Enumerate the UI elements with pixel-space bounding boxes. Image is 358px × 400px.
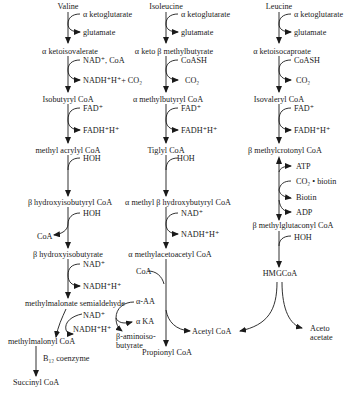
- valine-step3-in: FAD⁺: [83, 105, 103, 113]
- valine-final-product: Succinyl CoA: [13, 379, 59, 387]
- valine-final-cofactor: B₁₂ coenzyme: [43, 355, 89, 363]
- isoleucine-step3-cofactor-curve: [166, 108, 178, 130]
- leucine-step2-in: CoASH: [294, 57, 320, 65]
- isoleucine-label: Isoleucine: [149, 3, 183, 11]
- valine-step5-out: CoA: [37, 233, 52, 241]
- valine-branch-right-out: α KA: [136, 318, 154, 326]
- leucine-step2-out: CO₂: [296, 77, 310, 85]
- valine-step5-product: β hydroxyisobutyrate: [33, 251, 103, 259]
- acetyl-coa-label: Acetyl CoA: [192, 328, 231, 336]
- isoleucine-step1-cofactor-curve: [166, 14, 178, 32]
- isoleucine-step5-cofactor-curve: [166, 213, 178, 234]
- valine-step3-cofactor-curve: [68, 108, 80, 130]
- isoleucine-step1-in: α ketoglutarate: [181, 11, 230, 19]
- leucine-step4-atp: ATP: [296, 163, 311, 171]
- isoleucine-step4-product: α methyl β hydroxybutyryl CoA: [125, 199, 231, 207]
- leucine-step4-adp: ADP: [296, 209, 312, 217]
- bcaa-catabolism-diagram: Valine α ketoglutarate glutamate α ketoi…: [0, 0, 358, 400]
- valine-step5-cofactor-curve: [54, 213, 80, 235]
- leucine-step3-product: β methylcrotonyl CoA: [248, 147, 322, 155]
- leucine-step4-up-arrowhead: [276, 156, 282, 164]
- propionyl-coa-label: Propionyl CoA: [142, 349, 192, 357]
- valine-label: Valine: [58, 3, 79, 11]
- leucine-step5-cofactor-curve: [279, 236, 291, 246]
- valine-branch-right-product-line1: β-aminoiso-: [116, 333, 156, 341]
- valine-step2-out: NADH⁺H⁺+ CO₂: [83, 77, 142, 85]
- valine-branch-left-arrow: [56, 309, 66, 337]
- valine-step1-cofactor-curve: [68, 14, 80, 32]
- valine-branch-right-in: α-AA: [136, 298, 155, 306]
- acetoacetate-label-line2: acetate: [310, 334, 333, 342]
- leucine-step4-co2-biotin: CO₂ • biotin: [296, 178, 336, 186]
- valine-step3-out: FADH⁺H⁺: [83, 127, 119, 135]
- valine-step1-in: α ketoglutarate: [83, 11, 132, 19]
- leucine-arrows: [240, 12, 302, 331]
- leucine-step4-product: β methylglutaconyl CoA: [252, 222, 333, 230]
- valine-step6-in: NAD⁺: [83, 261, 105, 269]
- valine-step1-product: α ketoisovalerate: [42, 48, 98, 56]
- valine-step4-in: HOH: [83, 155, 101, 163]
- valine-step6-out: NADH⁺H⁺: [83, 283, 121, 291]
- leucine-step3-out: FADH⁺H⁺: [294, 127, 330, 135]
- isoleucine-step2-cofactor-curve: [166, 60, 178, 80]
- leucine-step4-biotin: Biotin: [296, 194, 316, 202]
- leucine-step1-out: glutamate: [294, 29, 326, 37]
- valine-branch-left-in: NAD⁺: [83, 312, 105, 320]
- leucine-step1-product: α ketoisocaproate: [253, 48, 311, 56]
- isoleucine-to-acetylcoa-curve: [166, 310, 190, 331]
- hmgcoa-to-acetylcoa-curve: [240, 282, 277, 331]
- valine-branch-left-product: methylmalonyl CoA: [8, 338, 75, 346]
- valine-step6-cofactor-curve: [68, 264, 80, 286]
- leucine-step4-co2biotin-curve: [279, 181, 291, 190]
- leucine-step4-adp-curve: [279, 200, 291, 212]
- leucine-step3-in: FAD⁺: [294, 105, 314, 113]
- leucine-step4-atp-curve: [279, 166, 291, 172]
- acetoacetate-label-line1: Aceto: [310, 325, 330, 333]
- isoleucine-step5-product: α methylacetoacetyl CoA: [128, 251, 211, 259]
- isoleucine-step1-product: α keto β methylbutyrate: [135, 48, 213, 56]
- leucine-step2-product: Isovaleryl CoA: [254, 96, 304, 104]
- isoleucine-step2-product: α methylbutyryl CoA: [133, 96, 203, 104]
- valine-step4-cofactor-curve: [68, 158, 80, 170]
- valine-step2-cofactor-curve: [68, 60, 80, 80]
- isoleucine-thiolase-in: CoA: [136, 268, 151, 276]
- isoleucine-step5-out: NADH⁺H⁺: [181, 231, 219, 239]
- isoleucine-step3-in: FAD⁺: [181, 105, 201, 113]
- leucine-step2-cofactor-curve: [279, 60, 291, 80]
- hmgcoa-label: HMGCoA: [263, 270, 298, 278]
- valine-branch-right-cofactor-out: [116, 318, 132, 323]
- leucine-label: Leucine: [266, 3, 292, 11]
- leucine-step1-cofactor-curve: [279, 14, 291, 32]
- valine-step6-product: methylmalonate semialdehyde: [25, 300, 125, 308]
- isoleucine-step2-out: CO₂: [185, 77, 199, 85]
- valine-branch-right-product-line2: butyrate: [116, 342, 143, 350]
- leucine-step5-in: HOH: [294, 234, 312, 242]
- hmgcoa-to-acetoacetate-curve: [282, 282, 302, 328]
- valine-step5-in: HOH: [83, 210, 101, 218]
- isoleucine-step1-out: glutamate: [181, 29, 213, 37]
- isoleucine-step5-in: NAD⁺: [181, 210, 203, 218]
- leucine-step3-cofactor-curve: [279, 108, 291, 130]
- leucine-step1-in: α ketoglutarate: [294, 11, 343, 19]
- isoleucine-step4-in: HOH: [177, 155, 195, 163]
- isoleucine-step2-in: CoASH: [181, 57, 207, 65]
- valine-arrows: [36, 12, 134, 376]
- valine-branch-left-out: NADH⁺H⁺: [73, 326, 111, 334]
- isoleucine-step3-out: FADH⁺H⁺: [181, 127, 217, 135]
- valine-step1-out: glutamate: [83, 29, 115, 37]
- valine-step4-product: β hydroxyisobutyryl CoA: [28, 199, 112, 207]
- valine-step2-in: NAD⁺, CoA: [83, 57, 125, 65]
- leucine-step4-biotin-curve: [279, 190, 291, 198]
- valine-step2-product: Isobutyryl CoA: [42, 96, 93, 104]
